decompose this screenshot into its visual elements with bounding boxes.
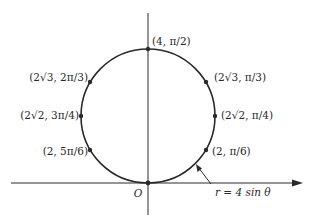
point-4-pi-2 bbox=[146, 47, 150, 51]
label-2root3-pi-3: (2√3, π/3) bbox=[214, 71, 266, 83]
point-2root2-3pi-4 bbox=[79, 114, 83, 118]
point-2root3-2pi-3 bbox=[88, 80, 92, 84]
point-2root2-pi-4 bbox=[213, 114, 217, 118]
point-2root3-pi-3 bbox=[204, 80, 208, 84]
diagram-canvas: (4, π/2) (2√3, π/3) (2√3, 2π/3) (2√2, π/… bbox=[0, 0, 314, 217]
origin-label: O bbox=[134, 187, 143, 199]
label-2-5pi-6: (2, 5π/6) bbox=[43, 145, 88, 157]
point-2-pi-6 bbox=[204, 148, 208, 152]
label-2root2-pi-4: (2√2, π/4) bbox=[221, 109, 273, 121]
point-origin bbox=[146, 181, 151, 186]
polar-diagram: (4, π/2) (2√3, π/3) (2√3, 2π/3) (2√2, π/… bbox=[0, 0, 314, 217]
x-axis-arrow-icon bbox=[292, 180, 303, 187]
label-2root3-2pi-3: (2√3, 2π/3) bbox=[29, 71, 88, 83]
label-4-pi-2: (4, π/2) bbox=[152, 35, 191, 47]
label-2root2-3pi-4: (2√2, 3π/4) bbox=[20, 109, 79, 121]
equation-label: r = 4 sin θ bbox=[215, 186, 271, 198]
label-2-pi-6: (2, π/6) bbox=[212, 145, 251, 157]
point-2-5pi-6 bbox=[88, 148, 92, 152]
